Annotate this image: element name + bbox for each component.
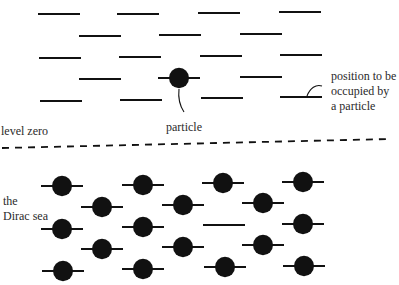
particle-callout xyxy=(179,89,184,112)
particle-dot-icon xyxy=(293,214,313,234)
particle-dot-icon xyxy=(294,256,314,276)
level-zero-dashed-line xyxy=(2,139,390,148)
sea-particle xyxy=(204,257,246,277)
position-callout xyxy=(307,85,322,96)
particle-dot-icon xyxy=(169,68,189,88)
particle-dot-icon xyxy=(133,175,153,195)
sea-particle xyxy=(242,235,284,255)
sea-particle xyxy=(282,214,324,234)
particle-dot-icon xyxy=(52,219,72,239)
sea-particle xyxy=(202,173,244,193)
zero-level-dashes xyxy=(2,139,390,148)
occupied-energy-level xyxy=(158,68,200,88)
particle-dot-icon xyxy=(92,239,112,259)
sea-particle xyxy=(162,195,204,215)
callout-lines xyxy=(179,85,322,112)
position-to-be-occupied-label: position to be occupied by a particle xyxy=(331,69,396,114)
particle-dot-icon xyxy=(173,195,193,215)
sea-particle xyxy=(242,193,284,213)
particle-dot-icon xyxy=(215,257,235,277)
sea-particle xyxy=(162,237,204,257)
particle-label: particle xyxy=(166,120,202,135)
particle-dot-icon xyxy=(293,172,313,192)
sea-particle xyxy=(122,217,164,237)
dirac-sea-particles xyxy=(41,172,325,281)
particle-dot-icon xyxy=(52,176,72,196)
sea-particle xyxy=(282,172,324,192)
particle-dot-icon xyxy=(253,235,273,255)
particle-dot-icon xyxy=(133,217,153,237)
sea-particle xyxy=(283,256,325,276)
dirac-sea-diagram xyxy=(0,0,399,285)
sea-particle xyxy=(42,261,84,281)
sea-particle xyxy=(81,197,123,217)
particle-dot-icon xyxy=(133,259,153,279)
particle-dot-icon xyxy=(173,237,193,257)
particle-dot-icon xyxy=(53,261,73,281)
upper-particle xyxy=(158,68,200,88)
dirac-sea-label: the Dirac sea xyxy=(3,194,48,224)
sea-particle xyxy=(122,175,164,195)
level-zero-label: level zero xyxy=(1,124,48,139)
sea-particle xyxy=(81,239,123,259)
particle-dot-icon xyxy=(92,197,112,217)
sea-particle xyxy=(122,259,164,279)
particle-dot-icon xyxy=(213,173,233,193)
particle-dot-icon xyxy=(253,193,273,213)
